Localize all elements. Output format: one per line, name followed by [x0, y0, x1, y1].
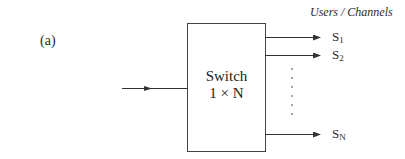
- figure-label: (a): [40, 33, 56, 49]
- output-subscript: 2: [339, 53, 344, 63]
- output-subscript: 1: [339, 35, 344, 45]
- switch-label: Switch 1 × N: [187, 68, 266, 102]
- users-channels-header: Users / Channels: [310, 5, 393, 20]
- output-subscript: N: [339, 132, 346, 142]
- output-label-s1: S1: [332, 29, 344, 45]
- output-label-sn: SN: [332, 126, 346, 142]
- switch-subtitle: 1 × N: [187, 85, 266, 102]
- switch-title: Switch: [187, 68, 266, 85]
- input-arrow: [122, 86, 187, 91]
- vertical-ellipsis-icon: [291, 68, 293, 115]
- output-label-s2: S2: [332, 47, 344, 63]
